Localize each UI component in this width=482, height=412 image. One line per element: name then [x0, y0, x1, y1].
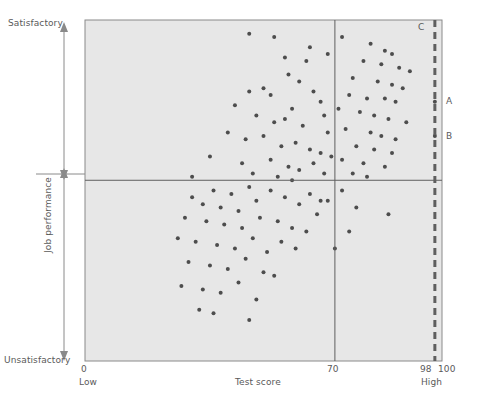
data-point: [383, 49, 387, 53]
data-point: [229, 192, 233, 196]
data-point: [226, 131, 230, 135]
data-point: [401, 86, 405, 90]
data-point: [390, 151, 394, 155]
data-point: [344, 127, 348, 131]
data-point: [379, 62, 383, 66]
data-point: [283, 117, 287, 121]
data-point: [247, 318, 251, 322]
data-point: [212, 189, 216, 193]
data-point: [190, 175, 194, 179]
data-point: [304, 59, 308, 63]
data-point: [190, 195, 194, 199]
data-point: [254, 298, 258, 302]
data-point: [386, 117, 390, 121]
data-point: [283, 56, 287, 60]
data-point: [308, 192, 312, 196]
data-point: [394, 100, 398, 104]
data-point: [251, 171, 255, 175]
data-point: [397, 66, 401, 70]
data-point: [347, 93, 351, 97]
annotation-label-b: B: [446, 131, 452, 141]
data-point: [340, 158, 344, 162]
data-point: [272, 274, 276, 278]
data-point: [294, 141, 298, 145]
data-point: [208, 264, 212, 268]
data-point: [294, 246, 298, 250]
data-point: [297, 202, 301, 206]
data-point: [276, 219, 280, 223]
data-point: [319, 199, 323, 203]
data-point: [297, 79, 301, 83]
data-point: [311, 161, 315, 165]
data-point: [179, 284, 183, 288]
data-point: [386, 212, 390, 216]
data-point: [340, 189, 344, 193]
data-point: [361, 59, 365, 63]
data-point: [322, 113, 326, 117]
data-point: [197, 308, 201, 312]
data-point: [329, 154, 333, 158]
x-axis-low-label: Low: [79, 377, 97, 387]
data-point: [304, 229, 308, 233]
data-point: [272, 120, 276, 124]
data-point: [279, 144, 283, 148]
data-point: [354, 144, 358, 148]
data-point: [219, 206, 223, 210]
data-point: [290, 107, 294, 111]
x-tick-label-100: 100: [438, 364, 455, 374]
data-point: [237, 281, 241, 285]
data-point: [308, 148, 312, 152]
data-point: [279, 240, 283, 244]
data-point: [215, 243, 219, 247]
data-point: [301, 124, 305, 128]
data-point: [233, 103, 237, 107]
data-point: [254, 113, 258, 117]
data-point: [394, 137, 398, 141]
data-point: [254, 199, 258, 203]
data-point: [326, 52, 330, 56]
x-axis-title: Test score: [235, 377, 281, 387]
data-point: [240, 226, 244, 230]
data-point: [201, 202, 205, 206]
data-point: [308, 45, 312, 49]
data-point: [269, 158, 273, 162]
data-point: [247, 185, 251, 189]
data-point: [319, 151, 323, 155]
data-point: [240, 161, 244, 165]
data-point: [340, 35, 344, 39]
data-point: [269, 93, 273, 97]
data-point: [222, 223, 226, 227]
data-point: [369, 131, 373, 135]
data-point: [383, 165, 387, 169]
data-point: [326, 199, 330, 203]
data-point: [336, 107, 340, 111]
data-point: [262, 270, 266, 274]
data-point: [265, 250, 269, 254]
y-axis-bottom-label: Unsatisfactory: [4, 355, 70, 365]
data-point: [272, 35, 276, 39]
data-point: [369, 42, 373, 46]
data-point: [247, 32, 251, 36]
data-point: [226, 267, 230, 271]
data-point: [351, 171, 355, 175]
data-point: [376, 79, 380, 83]
data-point: [372, 113, 376, 117]
data-point: [319, 100, 323, 104]
data-point: [219, 291, 223, 295]
data-point: [351, 76, 355, 80]
x-axis-high-label: High: [421, 377, 442, 387]
chart-canvas: [0, 0, 482, 412]
data-point: [365, 96, 369, 100]
data-point: [408, 69, 412, 73]
data-point: [358, 110, 362, 114]
data-point: [201, 287, 205, 291]
data-point: [390, 83, 394, 87]
data-point: [194, 240, 198, 244]
data-point: [372, 148, 376, 152]
data-point: [297, 168, 301, 172]
x-tick-label-70: 70: [327, 364, 339, 374]
annotation-label-c: C: [418, 22, 424, 32]
data-point: [379, 134, 383, 138]
data-point: [251, 236, 255, 240]
data-point: [311, 90, 315, 94]
